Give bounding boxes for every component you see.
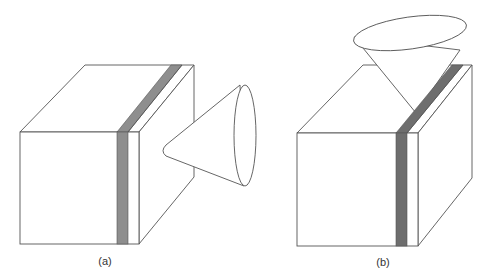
diagram-canvas [0,0,489,280]
panel-a-label: (a) [98,255,111,267]
cone-a-base [234,85,256,186]
box-a-strip-front [117,132,128,244]
panel-a [20,65,256,244]
box-b-strip-front [396,133,407,246]
panel-b [297,9,472,246]
panel-b-label: (b) [376,256,389,268]
